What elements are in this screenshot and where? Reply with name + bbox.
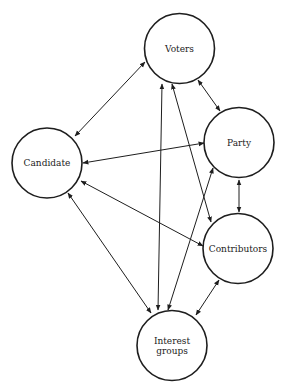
nodes-layer: VotersCandidatePartyContributorsInterest… bbox=[12, 14, 274, 381]
edge-voters-party-arrow bbox=[198, 80, 220, 111]
node-party: Party bbox=[204, 108, 274, 178]
node-interest-groups: Interestgroups bbox=[137, 311, 207, 381]
node-voters: Voters bbox=[145, 14, 215, 84]
edge-candidate-voters-arrow bbox=[75, 62, 145, 136]
edge-candidate-party-arrow bbox=[83, 143, 204, 163]
node-label: Contributors bbox=[209, 244, 268, 254]
node-label: groups bbox=[156, 346, 188, 356]
influence-network-diagram: VotersCandidatePartyContributorsInterest… bbox=[0, 0, 284, 391]
node-contributors: Contributors bbox=[203, 214, 273, 284]
edges-layer bbox=[68, 62, 239, 315]
node-label: Candidate bbox=[24, 158, 71, 168]
node-label: Voters bbox=[164, 44, 194, 54]
edge-candidate-interest-groups-arrow bbox=[68, 193, 151, 313]
edge-candidate-contributors-arrow bbox=[81, 181, 203, 246]
edge-contributors-interest-groups-arrow bbox=[196, 280, 219, 315]
node-label: Party bbox=[227, 138, 252, 148]
edge-voters-interest-groups-arrow bbox=[158, 84, 162, 310]
node-candidate: Candidate bbox=[12, 128, 82, 198]
node-label: Interest bbox=[154, 336, 191, 346]
